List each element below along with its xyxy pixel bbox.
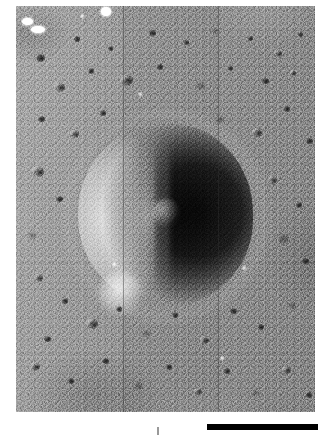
- fiducial-mark-2-icon: [31, 26, 45, 33]
- scale-bar: [207, 424, 318, 430]
- framelet-seam-right: [218, 6, 219, 412]
- regolith-grain-layer-2: [16, 6, 315, 412]
- fiducial-mark-1-icon: [22, 18, 33, 25]
- framelet-seam-left: [123, 6, 124, 412]
- scale-bar-tick: [157, 427, 159, 435]
- figure-root: [0, 0, 332, 439]
- fiducial-mark-3-icon: [101, 7, 111, 16]
- lunar-surface-photo: [16, 6, 315, 412]
